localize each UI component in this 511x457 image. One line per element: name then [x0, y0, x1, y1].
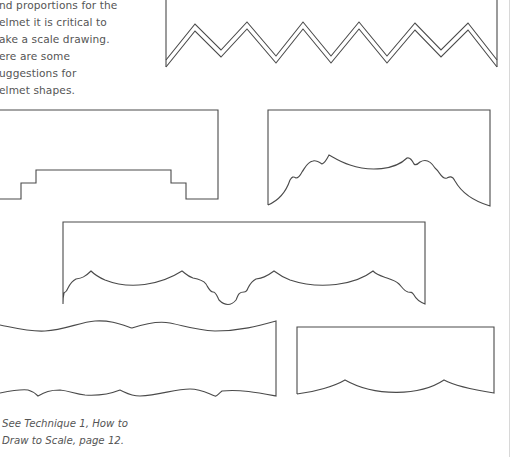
caption-line: Draw to Scale, page 12.	[2, 433, 128, 450]
stepped-pelmet-shape	[0, 110, 218, 199]
page-edge-divider	[509, 0, 510, 457]
pelmet-shapes-illustration	[0, 0, 511, 457]
wavy-pelmet-shape	[0, 321, 276, 396]
triple-scallop-pelmet-shape	[297, 327, 494, 394]
caption-line: See Technique 1, How to	[2, 416, 128, 433]
scalloped-arch-pelmet-shape	[268, 110, 490, 206]
zigzag-pelmet-shape	[166, 0, 497, 67]
figure-caption: See Technique 1, How to Draw to Scale, p…	[2, 416, 128, 449]
long-scalloped-pelmet-shape	[63, 222, 425, 305]
